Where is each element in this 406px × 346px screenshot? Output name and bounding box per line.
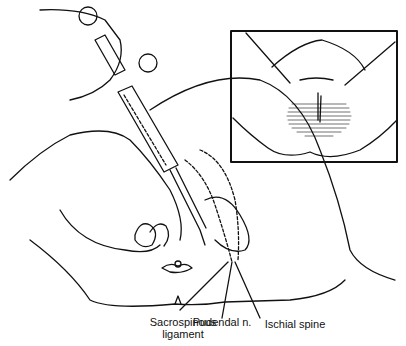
- label-line: Pudendal n.: [192, 316, 252, 328]
- label-ischial-spine: Ischial spine: [260, 318, 330, 330]
- label-line: ligament: [138, 328, 228, 340]
- illustration: [0, 0, 406, 346]
- label-line: Ischial spine: [260, 318, 330, 330]
- label-pudendal-nerve: Pudendal n.: [192, 316, 252, 328]
